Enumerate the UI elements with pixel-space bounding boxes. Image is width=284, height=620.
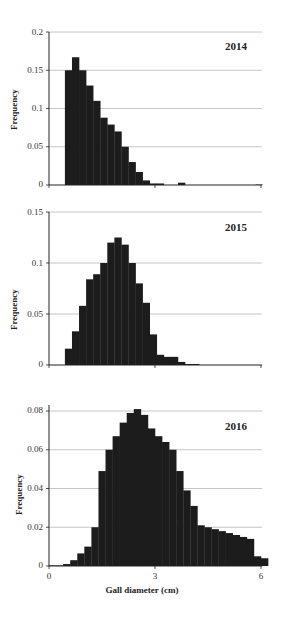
x-tick: 3: [147, 571, 163, 581]
panel-2015: Frequency 0.15 0.1 0.05 0 2015: [0, 200, 284, 390]
histogram-bar: [150, 334, 157, 365]
panel-2014: Frequency 0.2 0.15 0.1 0.05 0 2014: [0, 0, 284, 200]
y-tick: 0.15: [13, 207, 43, 217]
histogram-bar: [197, 525, 204, 566]
histogram-bar: [155, 436, 162, 566]
histogram-bar: [127, 413, 134, 566]
histogram-bar: [261, 558, 268, 566]
histogram-bar: [141, 415, 148, 566]
y-tick: 0: [13, 560, 43, 570]
histogram-bar: [254, 556, 261, 566]
y-tick: 0.1: [13, 103, 43, 113]
y-tick: 0.1: [13, 258, 43, 268]
y-tick: 0.2: [13, 27, 43, 37]
histogram-bar: [121, 147, 128, 185]
histogram-bar: [162, 442, 169, 566]
year-label: 2016: [225, 420, 247, 432]
histogram-bar: [114, 131, 121, 185]
y-axis-label: Frequency: [14, 474, 24, 515]
histogram-bar: [70, 560, 77, 566]
y-tick: 0.05: [13, 141, 43, 151]
histogram-bar: [169, 450, 176, 566]
histogram-bar: [128, 162, 135, 185]
histogram-bar: [143, 180, 150, 185]
histogram-bar: [107, 243, 114, 365]
x-axis-label: Gall diameter (cm): [0, 585, 284, 595]
histogram-bar: [134, 409, 141, 566]
histogram-bar: [72, 331, 79, 365]
histogram-bar: [247, 539, 254, 566]
y-tick: 0.15: [13, 65, 43, 75]
panel-2016: Frequency 0.08 0.06 0.04 0.02 0 2016 0 3…: [0, 395, 284, 620]
histogram-bar: [79, 306, 86, 365]
histogram-bar: [106, 450, 113, 566]
year-label: 2014: [225, 40, 247, 52]
histogram-bar: [190, 506, 197, 566]
histogram-bar: [65, 349, 72, 365]
histogram-bar: [240, 537, 247, 566]
histogram-bar: [171, 357, 178, 365]
histogram-bar: [98, 471, 105, 566]
histogram-bar: [65, 70, 72, 185]
histogram-bar: [121, 245, 128, 365]
y-tick: 0.05: [13, 309, 43, 319]
histogram-bar: [120, 423, 127, 566]
y-tick: 0.06: [13, 444, 43, 454]
y-tick: 0: [13, 359, 43, 369]
y-tick: 0: [13, 179, 43, 189]
histogram-bar: [93, 274, 100, 365]
y-tick: 0.04: [13, 483, 43, 493]
histogram-bar: [128, 263, 135, 365]
histogram-bar: [113, 436, 120, 566]
x-tick: 0: [41, 571, 57, 581]
histogram-bar: [91, 527, 98, 566]
histogram-bar: [77, 553, 84, 566]
x-tick: 6: [253, 571, 269, 581]
histogram-bar: [157, 355, 164, 365]
histogram-bar: [84, 547, 91, 566]
histogram-bar: [136, 283, 143, 365]
histogram-bar: [183, 490, 190, 566]
y-tick: 0.08: [13, 405, 43, 415]
year-label: 2015: [225, 221, 247, 233]
histogram-bar: [212, 529, 219, 566]
histogram-bar: [86, 86, 93, 185]
histogram-bar: [143, 303, 150, 365]
histogram-bar: [226, 533, 233, 566]
histogram-bar: [219, 531, 226, 566]
histogram-bar: [176, 471, 183, 566]
y-tick: 0.02: [13, 522, 43, 532]
histogram-bar: [107, 125, 114, 185]
histogram-bar: [79, 70, 86, 185]
histogram-bar: [100, 263, 107, 365]
histogram-bar: [204, 527, 211, 566]
histogram-bar: [136, 172, 143, 185]
histogram-bar: [148, 428, 155, 566]
histogram-bar: [100, 118, 107, 185]
histogram-bar: [233, 535, 240, 566]
histogram-bar: [72, 57, 79, 185]
histogram-bar: [114, 238, 121, 366]
histogram-bar: [93, 101, 100, 185]
histogram-bar: [164, 357, 171, 365]
histogram-bar: [86, 279, 93, 365]
